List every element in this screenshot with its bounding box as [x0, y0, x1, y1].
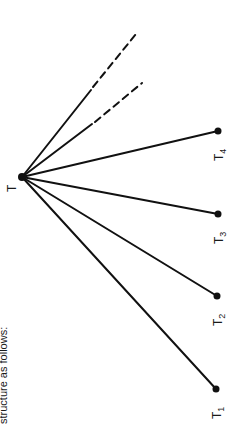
terminal-label-text: T: [212, 154, 226, 161]
diagram-lines: [0, 0, 244, 424]
hub-label: T: [5, 185, 19, 192]
terminal-label-text: T: [211, 319, 225, 326]
edge-branch-upper-dashed: [93, 34, 136, 87]
hub-node: [18, 173, 26, 181]
terminal-label-subscript: 3: [218, 232, 228, 237]
terminal-label-subscript: 4: [218, 149, 228, 154]
terminal-label-subscript: 1: [216, 407, 226, 412]
edge-branch-lower-dashed: [95, 83, 142, 122]
terminal-label-text: T: [210, 412, 224, 419]
caption-text: structure as follows:: [0, 327, 9, 424]
terminal-label-t1: T1: [210, 407, 226, 419]
terminal-label-t3: T3: [212, 232, 228, 244]
hub-label-text: T: [5, 185, 19, 192]
node-t1: [213, 386, 220, 393]
terminal-label-t4: T4: [212, 149, 228, 161]
node-t4: [215, 128, 222, 135]
node-t2: [214, 293, 221, 300]
node-t3: [215, 211, 222, 218]
terminal-label-t2: T2: [211, 314, 227, 326]
terminal-label-subscript: 2: [217, 314, 227, 319]
terminal-label-text: T: [212, 237, 226, 244]
tree-diagram: structure as follows: T T1 T2 T3 T4: [0, 0, 244, 424]
